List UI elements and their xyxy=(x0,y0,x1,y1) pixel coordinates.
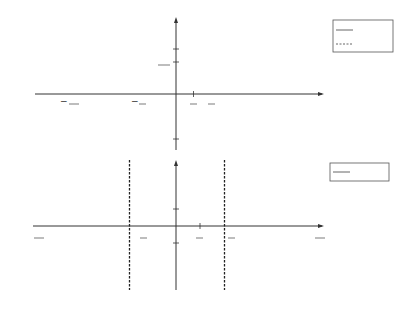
bottom-legend xyxy=(330,163,389,181)
bottom-x-arrow-icon xyxy=(318,224,324,228)
top-x-arrow-icon xyxy=(318,92,324,96)
bottom-chart xyxy=(33,160,389,290)
chart-canvas: − − xyxy=(0,0,416,310)
minus-sign: − xyxy=(60,96,68,106)
bottom-y-arrow-icon xyxy=(174,160,178,166)
top-y-arrow-icon xyxy=(174,17,178,23)
top-legend xyxy=(0,0,393,52)
minus-sign: − xyxy=(131,96,139,106)
top-chart: − − xyxy=(0,0,393,150)
